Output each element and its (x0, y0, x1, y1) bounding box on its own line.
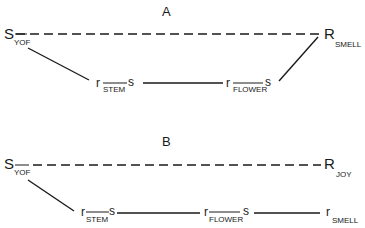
node-chain-b-0: r STEM s (81, 204, 115, 224)
node-sub: FLOWER (233, 85, 267, 94)
node-main: R (324, 155, 335, 172)
node-sub: YOF (14, 168, 31, 177)
node-sub: YOF (14, 38, 31, 47)
node-response-b: R JOY (324, 155, 352, 179)
node-response-a: R SMELL (324, 25, 362, 49)
panel-label-b: B (162, 134, 171, 149)
node-main: r (96, 76, 100, 90)
edge-s-yof-to-r-stem (28, 180, 74, 211)
node-sub: SMELL (335, 40, 362, 49)
panel-a: A S YOF R SMELL r STEM s (4, 4, 362, 94)
node-tail: s (128, 75, 134, 89)
panel-label-a: A (162, 4, 171, 19)
node-main: S (4, 25, 14, 42)
diagram-canvas: A S YOF R SMELL r STEM s (0, 0, 365, 228)
diagram-svg: A S YOF R SMELL r STEM s (0, 0, 365, 228)
panel-b: B S YOF R JOY r STEM s (4, 134, 359, 225)
node-main: r (204, 205, 208, 219)
edge-r-flower-to-r-smell (279, 37, 318, 81)
node-stimulus-b: S YOF (4, 155, 31, 177)
node-main: r (326, 205, 330, 219)
node-main: S (4, 155, 14, 172)
node-tail: s (243, 204, 249, 218)
edge-s-yof-to-r-stem (28, 48, 89, 80)
node-sub: JOY (336, 170, 352, 179)
node-chain-b-2: r SMELL (326, 205, 359, 225)
node-tail: s (109, 204, 115, 218)
node-stimulus-a: S YOF (4, 25, 31, 47)
node-main: r (226, 76, 230, 90)
node-main: r (81, 205, 85, 219)
node-sub: STEM (103, 85, 126, 94)
node-chain-a-0: r STEM s (96, 75, 134, 94)
node-sub: STEM (86, 215, 109, 224)
node-chain-b-1: r FLOWER s (204, 204, 249, 224)
node-main: R (324, 25, 335, 42)
node-sub: FLOWER (209, 215, 243, 224)
node-tail: s (265, 75, 271, 89)
node-chain-a-1: r FLOWER s (226, 75, 271, 94)
node-sub: SMELL (332, 216, 359, 225)
